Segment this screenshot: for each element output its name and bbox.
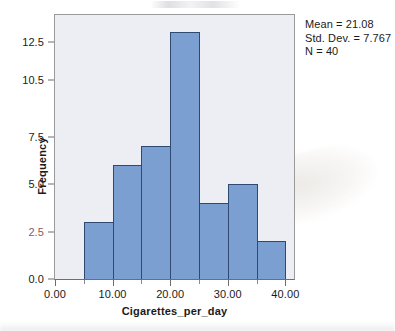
x-axis-tick-label: 10.00: [99, 288, 127, 300]
y-axis-tick-label: 2.5: [28, 226, 44, 238]
stats-n: N = 40: [305, 45, 391, 59]
histogram-bar: [113, 165, 143, 279]
x-axis-tick-mark: [55, 280, 56, 286]
x-axis-minor-tick-mark: [257, 280, 258, 284]
x-axis-tick-label: 30.00: [214, 288, 242, 300]
x-axis-tick-mark: [228, 280, 229, 286]
scan-artifact-top: [150, 1, 240, 8]
stats-mean: Mean = 21.08: [305, 18, 391, 32]
stats-annotation: Mean = 21.08 Std. Dev. = 7.767 N = 40: [305, 18, 391, 59]
x-axis-tick-mark: [285, 280, 286, 286]
plot-frame: [54, 14, 295, 280]
histogram-bar: [170, 32, 200, 279]
x-axis-tick-mark: [113, 280, 114, 286]
x-axis-minor-tick-mark: [199, 280, 200, 284]
stats-std-dev: Std. Dev. = 7.767: [305, 32, 391, 46]
y-axis-tick-label: 7.5: [28, 131, 44, 143]
histogram-bar: [257, 241, 287, 279]
x-axis-tick-label: 20.00: [156, 288, 184, 300]
y-axis-tick-label: 5.0: [28, 178, 44, 190]
histogram-figure: Frequency 0.02.55.07.510.512.5 0.0010.00…: [0, 0, 395, 331]
histogram-bar: [228, 184, 258, 279]
plot-area: [55, 15, 294, 279]
x-axis-tick-label: 40.00: [271, 288, 299, 300]
scan-artifact-bottom: [0, 322, 395, 331]
y-axis-tick-label: 12.5: [22, 36, 44, 48]
x-axis-minor-tick-mark: [141, 280, 142, 284]
histogram-bar: [84, 222, 114, 279]
x-axis-title: Cigarettes_per_day: [54, 305, 295, 317]
x-axis-tick-label: 0.00: [44, 288, 66, 300]
x-axis-tick-mark: [170, 280, 171, 286]
x-axis-minor-tick-mark: [84, 280, 85, 284]
y-axis-tick-label: 10.5: [22, 74, 44, 86]
histogram-bar: [199, 203, 229, 279]
histogram-bar: [141, 146, 171, 279]
